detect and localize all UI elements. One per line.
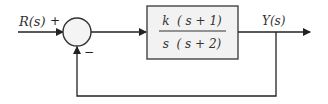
minus-sign: − <box>84 45 94 59</box>
tf-numerator: k ( s + 1) <box>162 14 222 28</box>
summing-junction <box>63 18 91 46</box>
input-label: R(s) <box>18 14 46 29</box>
block-diagram: R(s) + − k ( s + 1) s ( s + 2) Y(s) <box>0 0 328 104</box>
plus-sign: + <box>50 14 60 28</box>
tf-denominator: s ( s + 2) <box>163 37 222 51</box>
output-label: Y(s) <box>262 14 286 28</box>
